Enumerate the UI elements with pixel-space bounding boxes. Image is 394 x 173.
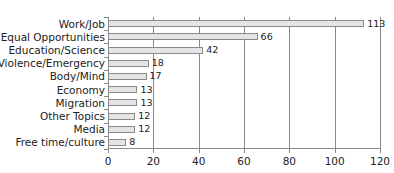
category-label: Economy xyxy=(57,84,105,96)
x-axis xyxy=(108,148,380,149)
category-label: Work/Job xyxy=(59,18,105,30)
bar xyxy=(108,60,149,67)
value-label: 113 xyxy=(367,18,385,30)
category-label: Migration xyxy=(55,97,105,109)
value-label: 12 xyxy=(138,110,150,122)
x-tick-mark xyxy=(380,149,381,153)
x-tick-label: 60 xyxy=(229,155,259,167)
category-label: Equal Opportunities xyxy=(1,31,105,43)
gridline xyxy=(289,17,290,149)
x-tick-label: 100 xyxy=(320,155,350,167)
x-tick-label: 0 xyxy=(93,155,123,167)
bar xyxy=(108,73,147,80)
value-label: 18 xyxy=(152,57,164,69)
category-label: Media xyxy=(73,123,105,135)
gridline xyxy=(380,17,381,149)
bar xyxy=(108,20,364,27)
x-tick-label: 80 xyxy=(274,155,304,167)
bar xyxy=(108,126,135,133)
bar xyxy=(108,47,203,54)
bar xyxy=(108,86,137,93)
x-tick-mark xyxy=(199,149,200,153)
value-label: 13 xyxy=(140,97,152,109)
category-label: Violence/Emergency xyxy=(0,57,105,69)
gridline xyxy=(335,17,336,149)
x-tick-mark xyxy=(335,149,336,153)
value-label: 17 xyxy=(150,70,162,82)
category-label: Body/Mind xyxy=(50,70,105,82)
x-tick-mark xyxy=(108,149,109,153)
value-label: 42 xyxy=(206,44,218,56)
x-tick-mark xyxy=(244,149,245,153)
bar xyxy=(108,33,258,40)
category-label: Other Topics xyxy=(40,110,105,122)
value-label: 13 xyxy=(140,84,152,96)
y-tick-mark xyxy=(104,149,108,150)
x-tick-label: 20 xyxy=(138,155,168,167)
bar xyxy=(108,113,135,120)
bar xyxy=(108,99,137,106)
x-tick-label: 120 xyxy=(365,155,394,167)
category-label: Education/Science xyxy=(8,44,105,56)
bar xyxy=(108,139,126,146)
x-tick-mark xyxy=(289,149,290,153)
x-tick-label: 40 xyxy=(184,155,214,167)
value-label: 8 xyxy=(129,136,135,148)
value-label: 12 xyxy=(138,123,150,135)
category-label: Free time/culture xyxy=(15,136,105,148)
value-label: 66 xyxy=(261,31,273,43)
x-tick-mark xyxy=(153,149,154,153)
